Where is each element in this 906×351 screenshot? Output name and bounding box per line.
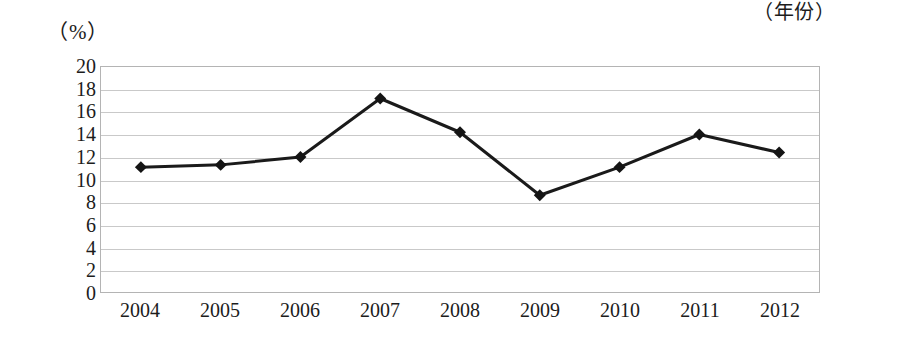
y-axis-tick-2: 2 (52, 260, 96, 280)
data-point-2012: 2012: 12.4 (773, 147, 785, 159)
data-point-2010: 2010: 11.1 (614, 161, 626, 173)
x-axis-tick-2005: 2005 (200, 298, 240, 322)
y-axis-tick-labels: 02468101214161820 (52, 58, 96, 299)
x-axis-tick-2010: 2010 (600, 298, 640, 322)
data-series-layer: 2004: 11.12005: 11.32006: 122007: 17.220… (101, 67, 819, 292)
plot-area: 2004: 11.12005: 11.32006: 122007: 17.220… (100, 66, 820, 293)
y-axis-tick-12: 12 (52, 147, 96, 167)
data-point-2004: 2004: 11.1 (135, 161, 147, 173)
data-point-2011: 2011: 14 (693, 129, 705, 141)
y-axis-tick-16: 16 (52, 101, 96, 121)
x-axis-tick-2012: 2012 (760, 298, 800, 322)
y-axis-tick-20: 20 (52, 56, 96, 76)
x-axis-tick-2004: 2004 (120, 298, 160, 322)
x-axis-tick-2011: 2011 (680, 298, 719, 322)
y-axis-tick-6: 6 (52, 215, 96, 235)
x-axis-tick-2006: 2006 (280, 298, 320, 322)
y-axis-tick-10: 10 (52, 170, 96, 190)
y-axis-tick-4: 4 (52, 238, 96, 258)
data-point-2005: 2005: 11.3 (215, 159, 227, 171)
y-axis-tick-18: 18 (52, 79, 96, 99)
x-axis-tick-2009: 2009 (520, 298, 560, 322)
y-axis-unit-label: （%） (47, 22, 110, 43)
line-chart-figure: （%） 02468101214161820 2004: 11.12005: 11… (0, 0, 906, 351)
x-axis-tick-labels: 200420052006200720082009201020112012 (100, 298, 820, 332)
series-line (141, 99, 779, 196)
x-axis-tick-2008: 2008 (440, 298, 480, 322)
y-axis-tick-14: 14 (52, 124, 96, 144)
x-axis-tick-2007: 2007 (360, 298, 400, 322)
x-axis-title: （年份） (753, 0, 835, 24)
y-axis-tick-8: 8 (52, 192, 96, 212)
y-axis-tick-0: 0 (52, 283, 96, 303)
gridline-0 (101, 293, 819, 294)
